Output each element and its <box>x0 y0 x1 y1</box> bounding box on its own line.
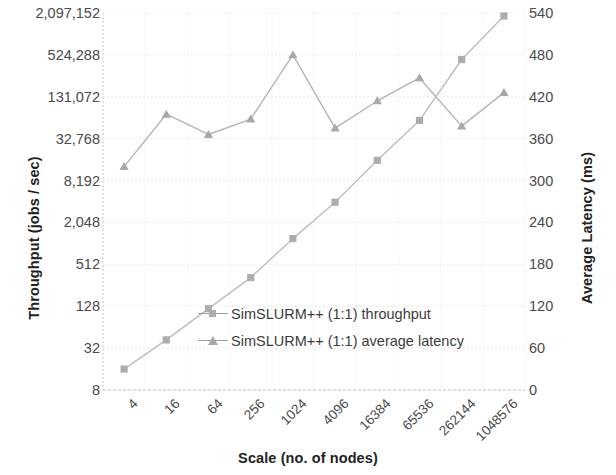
x-axis-tick-label: 256 <box>241 396 268 423</box>
data-point-marker <box>374 157 381 164</box>
legend-triangle-marker-icon <box>198 335 228 347</box>
x-axis-tick-label: 4 <box>125 396 141 412</box>
data-point-marker <box>163 336 170 343</box>
x-axis-tick-label: 4096 <box>320 396 352 428</box>
x-axis-tick-label: 1048576 <box>473 396 521 444</box>
data-point-marker <box>288 50 297 58</box>
legend-label-latency: SimSLURM++ (1:1) average latency <box>231 333 464 349</box>
x-axis-tick-label: 16384 <box>357 396 394 433</box>
x-axis-tick-label: 1024 <box>278 396 310 428</box>
x-axis-tick-label: 16 <box>162 396 183 417</box>
data-point-marker <box>458 56 465 63</box>
data-point-marker <box>247 274 254 281</box>
data-point-marker <box>331 124 340 132</box>
x-axis-tick-label: 64 <box>204 396 225 417</box>
x-axis-title: Scale (no. of nodes) <box>0 450 616 466</box>
legend-square-marker-icon <box>198 308 228 320</box>
legend-item-throughput: SimSLURM++ (1:1) throughput <box>198 300 464 327</box>
data-point-marker <box>121 365 128 372</box>
data-point-marker <box>499 88 508 96</box>
data-point-marker <box>332 199 339 206</box>
data-point-marker <box>373 96 382 104</box>
data-point-marker <box>415 73 424 81</box>
data-point-marker <box>162 110 171 118</box>
chart-legend: SimSLURM++ (1:1) throughput SimSLURM++ (… <box>198 300 464 354</box>
data-point-marker <box>416 117 423 124</box>
legend-item-latency: SimSLURM++ (1:1) average latency <box>198 327 464 354</box>
legend-label-throughput: SimSLURM++ (1:1) throughput <box>231 306 431 322</box>
data-point-marker <box>289 235 296 242</box>
chart-figure: Throughput (jobs / sec) 8321285122,0488,… <box>0 0 616 475</box>
data-point-marker <box>500 12 507 19</box>
x-axis-tick-label: 65536 <box>399 396 436 433</box>
data-point-marker <box>246 115 255 123</box>
